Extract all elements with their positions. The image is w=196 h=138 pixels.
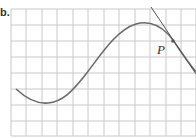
point-p-label: P: [157, 42, 165, 58]
graph-figure: [0, 0, 196, 138]
function-curve: [16, 23, 196, 103]
figure-label: b.: [0, 6, 10, 18]
point-p-marker: [171, 39, 175, 43]
grid-lines: [11, 9, 196, 136]
